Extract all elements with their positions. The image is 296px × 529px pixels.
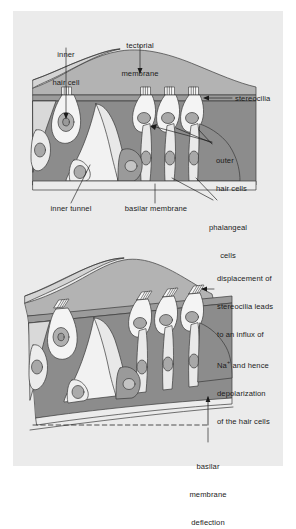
annotation-sodium-line: Na+ and hence bbox=[217, 358, 293, 370]
deflection-arrow bbox=[206, 396, 211, 425]
outer-hair-cell-3-nucleus-bottom bbox=[186, 312, 199, 323]
annotation-depolarization: displacement of stereocilia leads to an … bbox=[217, 255, 293, 446]
inner-supporting-cell-nucleus-left-bottom bbox=[32, 360, 43, 374]
outer-hair-cell-1-nucleus-bottom bbox=[134, 318, 147, 329]
hensen-cell-mid-nucleus-bottom bbox=[123, 379, 135, 390]
deiters-cell-inner-nucleus-bottom bbox=[72, 386, 84, 399]
outer-hair-cell-2-nucleus-bottom bbox=[160, 315, 173, 326]
annotation-na-text: Na bbox=[217, 361, 227, 370]
annotation-na-rest: and hence bbox=[230, 361, 269, 370]
phalangeal-cell-1-nucleus-bottom bbox=[137, 360, 147, 374]
phalangeal-cell-3-nucleus-bottom bbox=[189, 354, 199, 368]
inner-hair-cell-nucleolus-bottom bbox=[58, 333, 64, 341]
phalangeal-cells-group-bottom bbox=[137, 323, 200, 393]
label-basilar-membrane-deflection: basilar membrane deflection bbox=[176, 443, 240, 529]
phalangeal-cell-2-nucleus-bottom bbox=[163, 357, 173, 371]
